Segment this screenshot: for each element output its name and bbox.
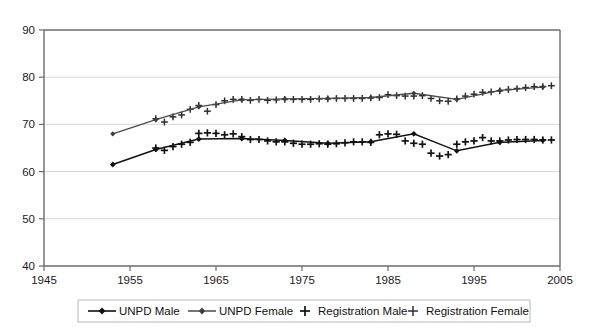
x-tick-label: 1995 — [461, 274, 487, 286]
plot-area-background — [44, 30, 560, 266]
y-tick-label: 80 — [22, 71, 35, 83]
x-tick-label: 1955 — [117, 274, 143, 286]
x-tick-label: 2005 — [547, 274, 573, 286]
y-tick-label: 60 — [22, 166, 35, 178]
y-tick-label: 50 — [22, 213, 35, 225]
y-tick-label: 70 — [22, 118, 35, 130]
life-expectancy-chart: 405060708090 194519551965197519851995200… — [0, 0, 601, 335]
legend-item-registration-female[interactable]: Registration Female — [408, 305, 529, 317]
x-tick-label: 1965 — [203, 274, 229, 286]
x-tick-label: 1945 — [31, 274, 57, 286]
y-tick-label: 40 — [22, 260, 35, 272]
legend-label-registration-male: Registration Male — [318, 305, 407, 317]
legend-label-unpd-female: UNPD Female — [219, 305, 293, 317]
y-axis-tick-labels: 405060708090 — [22, 24, 35, 272]
x-tick-label: 1975 — [289, 274, 315, 286]
chart-canvas: 405060708090 194519551965197519851995200… — [0, 0, 601, 335]
x-tick-label: 1985 — [375, 274, 401, 286]
legend-label-unpd-male: UNPD Male — [119, 305, 180, 317]
legend-label-registration-female: Registration Female — [426, 305, 529, 317]
y-axis-ticks — [39, 30, 44, 266]
x-axis-ticks — [44, 266, 560, 271]
x-axis-tick-labels: 1945195519651975198519952005 — [31, 274, 573, 286]
y-tick-label: 90 — [22, 24, 35, 36]
chart-legend: UNPD Male UNPD Female Registration Male — [78, 300, 530, 322]
